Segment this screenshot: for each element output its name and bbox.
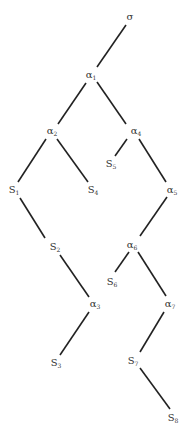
edge-S7-S8 (140, 368, 170, 409)
node-label: α (167, 184, 174, 195)
node-S8: S8 (168, 413, 179, 424)
node-subscript: 6 (133, 244, 137, 251)
edge-a2-S4 (57, 139, 88, 182)
node-a6: α6 (127, 240, 138, 251)
edge-S1-S2 (20, 198, 45, 238)
tree-edges (0, 0, 191, 429)
edge-a7-S7 (140, 312, 164, 352)
node-a1: α1 (86, 70, 97, 81)
node-subscript: 8 (175, 417, 179, 424)
node-subscript: 7 (135, 360, 139, 367)
node-S1: S1 (9, 185, 20, 196)
edge-a4-S5 (115, 139, 127, 156)
node-S7: S7 (128, 356, 139, 367)
node-subscript: 3 (96, 303, 100, 310)
node-a2: α2 (47, 126, 58, 137)
node-subscript: 4 (95, 189, 99, 196)
node-label: α (127, 239, 134, 250)
node-label: S (128, 355, 135, 366)
node-subscript: 7 (171, 303, 175, 310)
node-a7: α7 (165, 299, 176, 310)
node-label: S (9, 184, 16, 195)
node-subscript: 4 (137, 130, 141, 137)
node-label: σ (127, 11, 134, 22)
edge-S2-a3 (60, 255, 89, 297)
node-S2: S2 (50, 242, 61, 253)
node-label: S (106, 158, 113, 169)
node-label: α (90, 298, 97, 309)
node-a4: α4 (131, 126, 142, 137)
node-subscript: 5 (113, 163, 117, 170)
node-S5: S5 (106, 159, 117, 170)
node-label: α (131, 125, 138, 136)
node-a3: α3 (90, 299, 101, 310)
edge-sigma-a1 (97, 25, 126, 67)
edge-a6-S6 (115, 252, 129, 272)
node-label: S (168, 412, 175, 423)
node-subscript: 1 (92, 74, 96, 81)
edge-a6-a7 (138, 252, 166, 296)
edge-a2-S1 (18, 139, 46, 182)
node-subscript: 2 (57, 246, 61, 253)
node-S3: S3 (51, 358, 62, 369)
edge-a3-S3 (60, 312, 89, 355)
node-S6: S6 (107, 277, 118, 288)
node-label: α (47, 125, 54, 136)
node-sigma: σ (127, 12, 134, 22)
node-label: α (86, 69, 93, 80)
node-label: S (51, 357, 58, 368)
node-subscript: 3 (58, 362, 62, 369)
edge-a1-a2 (58, 83, 86, 124)
node-S4: S4 (88, 185, 99, 196)
edge-a5-a6 (140, 197, 167, 236)
node-label: S (88, 184, 95, 195)
edge-a1-a4 (97, 82, 126, 124)
node-subscript: 5 (173, 189, 177, 196)
node-subscript: 1 (16, 189, 20, 196)
node-label: S (50, 241, 57, 252)
node-subscript: 6 (114, 281, 118, 288)
node-a5: α5 (167, 185, 178, 196)
edge-a4-a5 (139, 139, 166, 182)
node-label: S (107, 276, 114, 287)
node-subscript: 2 (53, 130, 57, 137)
node-label: α (165, 298, 172, 309)
